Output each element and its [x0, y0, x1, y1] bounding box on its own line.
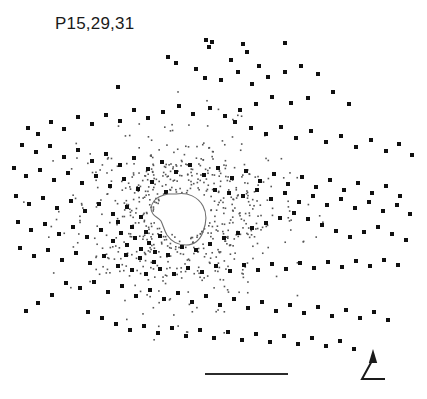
data-point-small [122, 216, 124, 218]
data-point-small [241, 176, 243, 178]
data-point-large [210, 40, 214, 44]
data-point-small [130, 211, 132, 213]
data-point-small [129, 135, 131, 137]
data-point-small [148, 232, 150, 234]
data-point-small [153, 208, 155, 210]
data-point-small [257, 215, 259, 217]
data-point-large [362, 230, 366, 234]
data-point-small [136, 270, 138, 272]
data-point-large [236, 231, 240, 235]
data-point-large [324, 140, 328, 144]
data-point-small [138, 197, 140, 199]
data-point-small [142, 266, 144, 268]
data-point-large [125, 205, 129, 209]
data-point-small [174, 236, 176, 238]
data-point-large [278, 216, 282, 220]
data-point-small [234, 252, 236, 254]
data-point-small [201, 280, 203, 282]
data-point-large [272, 172, 276, 176]
data-point-small [254, 236, 256, 238]
data-point-small [247, 262, 249, 264]
data-point-large [90, 122, 94, 126]
data-point-large [24, 309, 28, 313]
data-point-small [144, 196, 146, 198]
data-point-small [243, 220, 245, 222]
data-point-small [207, 170, 209, 172]
data-point-large [148, 288, 152, 292]
data-point-small [154, 247, 156, 249]
data-point-small [171, 187, 173, 189]
data-point-small [162, 276, 164, 278]
scatter-plot [0, 0, 427, 399]
data-point-small [140, 273, 142, 275]
data-point-large [283, 191, 287, 195]
data-point-small [217, 249, 219, 251]
data-point-small [116, 224, 118, 226]
data-point-large [384, 149, 388, 153]
data-point-large [111, 212, 115, 216]
data-point-small [252, 208, 254, 210]
data-point-large [18, 246, 22, 250]
data-point-large [132, 108, 136, 112]
data-point-small [211, 156, 213, 158]
data-point-large [381, 209, 385, 213]
data-point-large [331, 90, 335, 94]
data-point-small [219, 279, 221, 281]
data-point-large [119, 231, 123, 235]
data-point-small [197, 270, 199, 272]
data-point-large [208, 242, 212, 246]
data-point-small [168, 164, 170, 166]
data-point-small [139, 201, 141, 203]
data-point-large [46, 248, 50, 252]
data-point-small [63, 232, 65, 234]
data-point-small [223, 332, 225, 334]
data-point-small [176, 191, 178, 193]
data-point-small [96, 225, 98, 227]
data-point-small [164, 126, 166, 128]
data-point-small [92, 172, 94, 174]
data-point-small [210, 236, 212, 238]
data-point-small [117, 203, 119, 205]
data-point-large [254, 102, 258, 106]
data-point-small [170, 247, 172, 249]
data-point-small [162, 185, 164, 187]
data-point-small [217, 204, 219, 206]
data-point-small [197, 187, 199, 189]
data-point-small [302, 241, 304, 243]
data-point-large [92, 280, 96, 284]
data-point-small [124, 216, 126, 218]
data-point-large [314, 185, 318, 189]
data-point-large [344, 308, 348, 312]
data-point-small [249, 204, 251, 206]
data-point-small [214, 174, 216, 176]
data-point-small [153, 244, 155, 246]
data-point-large [338, 339, 342, 343]
data-point-small [149, 247, 151, 249]
data-point-small [183, 253, 185, 255]
data-point-small [242, 273, 244, 275]
data-point-small [131, 176, 133, 178]
data-point-large [62, 127, 66, 131]
data-point-large [130, 268, 134, 272]
data-point-large [236, 70, 240, 74]
data-point-small [152, 189, 154, 191]
data-point-small [158, 251, 160, 253]
data-point-large [241, 42, 245, 46]
data-point-small [149, 296, 151, 298]
data-point-small [126, 200, 128, 202]
data-point-small [297, 262, 299, 264]
data-point-small [209, 167, 211, 169]
data-point-small [224, 286, 226, 288]
data-point-small [148, 136, 150, 138]
data-point-small [287, 200, 289, 202]
data-point-small [319, 215, 321, 217]
data-point-small [188, 146, 190, 148]
data-point-large [370, 191, 374, 195]
data-point-small [130, 215, 132, 217]
data-point-small [112, 246, 114, 248]
data-point-large [64, 281, 68, 285]
data-point-small [179, 241, 181, 243]
data-point-small [167, 245, 169, 247]
data-point-small [232, 245, 234, 247]
data-point-small [123, 270, 125, 272]
